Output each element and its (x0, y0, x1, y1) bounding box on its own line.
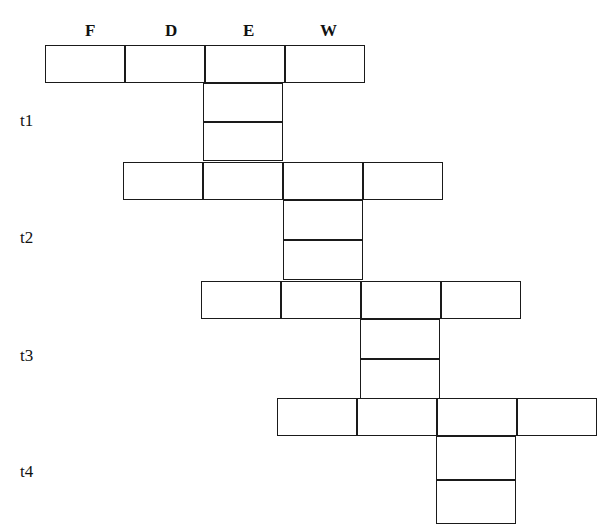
row-2-cell-1 (123, 162, 203, 200)
time-label-t1: t1 (20, 112, 33, 129)
column-header-f: F (85, 22, 95, 39)
column-header-e: E (243, 22, 254, 39)
row-4-cell-3 (437, 398, 517, 436)
row-3-cell-2 (281, 281, 361, 319)
row-3-cell-1 (201, 281, 281, 319)
time-label-t2: t2 (20, 229, 33, 246)
tail-4-cell-2 (436, 480, 516, 524)
row-1-cell-4 (285, 45, 365, 83)
time-label-t3: t3 (20, 347, 33, 364)
tail-1-cell-1 (203, 83, 283, 122)
row-1-cell-2 (125, 45, 205, 83)
tail-2-cell-2 (283, 240, 363, 280)
column-header-w: W (320, 22, 337, 39)
tail-3-cell-2 (360, 359, 440, 399)
row-2-cell-2 (203, 162, 283, 200)
row-2-cell-4 (363, 162, 443, 200)
row-1-cell-3 (205, 45, 285, 83)
row-2-cell-3 (283, 162, 363, 200)
row-3-cell-4 (441, 281, 521, 319)
tail-3-cell-1 (360, 319, 440, 359)
time-label-t4: t4 (20, 463, 33, 480)
row-3-cell-3 (361, 281, 441, 319)
row-4-cell-1 (277, 398, 357, 436)
diagram-canvas: FDEWt1t2t3t4 (0, 0, 613, 530)
tail-2-cell-1 (283, 200, 363, 240)
column-header-d: D (165, 22, 177, 39)
row-4-cell-2 (357, 398, 437, 436)
tail-1-cell-2 (203, 122, 283, 161)
tail-4-cell-1 (436, 436, 516, 480)
row-4-cell-4 (517, 398, 597, 436)
row-1-cell-1 (45, 45, 125, 83)
